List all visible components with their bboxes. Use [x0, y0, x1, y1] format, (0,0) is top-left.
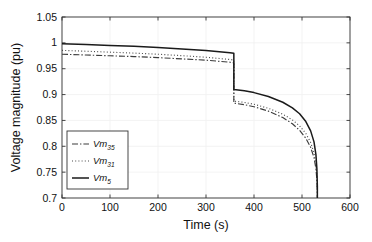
x-tick-label: 500: [293, 201, 311, 213]
x-tick-label: 300: [197, 201, 215, 213]
chart-canvas: 0100200300400500600 0.70.750.80.850.90.9…: [0, 0, 372, 242]
y-tick-label: 0.85: [37, 114, 58, 126]
y-tick-label: 0.95: [37, 62, 58, 74]
y-tick-label: 0.9: [42, 88, 57, 100]
y-tick-label: 0.8: [42, 140, 57, 152]
y-tick-label: 0.7: [42, 192, 57, 204]
voltage-magnitude-chart: 0100200300400500600 0.70.750.80.850.90.9…: [0, 0, 372, 242]
y-axis-label: Voltage magnitude (pu): [9, 43, 23, 172]
x-axis-label: Time (s): [183, 218, 228, 232]
y-tick-label: 0.75: [37, 166, 58, 178]
x-tick-label: 0: [59, 201, 65, 213]
chart-legend: Vm35Vm31Vm5: [67, 131, 128, 189]
x-tick-label: 400: [245, 201, 263, 213]
y-tick-label: 1: [51, 36, 57, 48]
x-tick-label: 100: [101, 201, 119, 213]
x-tick-label: 600: [341, 201, 359, 213]
x-tick-label: 200: [149, 201, 167, 213]
y-tick-label: 1.05: [37, 11, 58, 23]
